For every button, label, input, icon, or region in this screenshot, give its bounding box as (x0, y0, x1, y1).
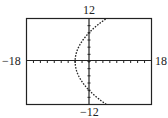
y-max-label: 12 (83, 4, 95, 16)
graph-window (0, 0, 168, 118)
y-min-label: −12 (80, 106, 99, 118)
x-max-label: 18 (155, 55, 167, 67)
x-min-label: −18 (2, 55, 21, 67)
parabola-curve (75, 19, 106, 105)
